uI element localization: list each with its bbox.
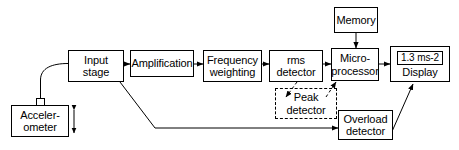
block-input-stage[interactable]: Input stage xyxy=(68,50,124,82)
block-memory[interactable]: Memory xyxy=(334,7,378,33)
wire-overload-detector-to-display xyxy=(390,84,413,136)
block-frequency-weighting-label-line1: Frequency xyxy=(207,54,258,67)
block-overload-detector-label-line1: Overload xyxy=(344,113,388,126)
block-microprocessor[interactable]: Micro- processor xyxy=(331,48,379,81)
block-microprocessor-label-line1: Micro- xyxy=(340,52,370,65)
block-display-label: Display xyxy=(402,66,437,78)
block-microprocessor-label-line2: processor xyxy=(331,65,378,78)
display-readout-value: 1.3 ms-2 xyxy=(397,51,443,65)
wire-accelerometer-to-input-stage xyxy=(41,64,69,99)
block-accelerometer-label-line1: Acceler- xyxy=(20,109,60,122)
block-accelerometer-label-line2: ometer xyxy=(23,121,57,134)
block-peak-detector[interactable]: Peak detector xyxy=(275,88,337,119)
block-input-stage-label-line2: stage xyxy=(83,66,109,79)
block-rms-detector-label-line2: detector xyxy=(277,66,316,79)
block-peak-detector-label-line2: detector xyxy=(287,104,326,117)
block-rms-detector[interactable]: rms detector xyxy=(269,50,323,82)
block-memory-label: Memory xyxy=(336,14,375,27)
block-diagram: Acceler- ometer Input stage Amplificatio… xyxy=(0,0,459,150)
block-frequency-weighting[interactable]: Frequency weighting xyxy=(203,50,262,82)
block-amplification[interactable]: Amplification xyxy=(130,50,194,77)
block-overload-detector-label-line2: detector xyxy=(346,125,385,138)
block-amplification-label: Amplification xyxy=(131,57,192,70)
block-accelerometer[interactable]: Acceler- ometer xyxy=(11,105,69,137)
block-input-stage-label-line1: Input xyxy=(84,54,108,67)
block-frequency-weighting-label-line2: weighting xyxy=(210,66,256,79)
block-peak-detector-label-line1: Peak xyxy=(294,91,319,104)
block-overload-detector[interactable]: Overload detector xyxy=(338,110,393,140)
block-rms-detector-label-line1: rms xyxy=(287,54,305,67)
block-display[interactable]: 1.3 ms-2 Display xyxy=(390,46,450,82)
